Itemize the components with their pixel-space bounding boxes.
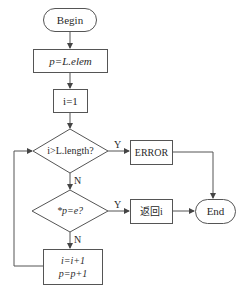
end-terminal: End — [195, 199, 236, 224]
init-i-box: i=1 — [53, 89, 88, 113]
increment-box: i=i+1 p=p+1 — [43, 249, 103, 285]
increment-line1: i=i+1 — [61, 254, 85, 267]
return-i-box: 返回i — [130, 199, 173, 224]
value-no-label: N — [74, 235, 81, 245]
begin-label: Begin — [57, 14, 83, 27]
length-yes-label: Y — [114, 140, 121, 150]
error-box: ERROR — [130, 140, 173, 165]
begin-terminal: Begin — [43, 8, 97, 32]
value-yes-label: Y — [114, 200, 121, 210]
length-no-label: N — [74, 176, 81, 186]
edge-error-to-end — [172, 152, 213, 198]
init-p-label: p=L.elem — [49, 55, 92, 68]
increment-line2: p=p+1 — [59, 267, 88, 280]
init-i-label: i=1 — [63, 95, 78, 108]
check-value-label-wrap: *p=e? — [32, 205, 108, 217]
init-p-box: p=L.elem — [33, 49, 108, 73]
error-label: ERROR — [135, 146, 168, 159]
end-label: End — [207, 205, 225, 218]
check-length-label: i>L.length? — [47, 145, 93, 157]
return-i-label: 返回i — [140, 205, 163, 218]
check-value-label: *p=e? — [57, 205, 83, 217]
check-length-label-wrap: i>L.length? — [33, 145, 108, 157]
